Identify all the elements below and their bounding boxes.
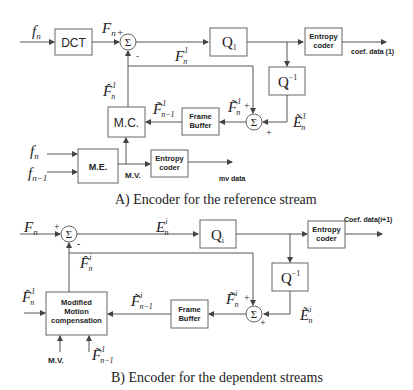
minus-sign: - — [77, 238, 80, 249]
signal-Ftildei-n: F̃in — [225, 289, 238, 309]
signal-Fhati-n: F̂in — [79, 253, 92, 273]
signal-Ftildei-nm1: F̃in−1 — [130, 291, 153, 311]
entropy-label-2: coder — [316, 234, 337, 243]
mmc-label-2: Motion — [64, 307, 89, 316]
coef-data-output: coef. data (1) — [351, 48, 394, 56]
entropy-label-1: Entropy — [309, 32, 338, 41]
frame-buffer-label-2: Buffer — [189, 121, 211, 130]
signal-f-n-me: fn — [30, 143, 39, 161]
sigma-label: Σ — [125, 36, 131, 48]
me-label: M.E. — [89, 162, 108, 172]
signal-Ftilde1-nm1: F̃1n−1 — [152, 99, 175, 119]
diagram-b: Fn + Σ - Ein Qi Entropy coder Coef. data… — [20, 216, 392, 386]
signal-f-n: fn — [32, 23, 41, 41]
signal-Ftilde1-nm1-b: F̃1n−1 — [91, 345, 114, 365]
caption-b: B) Encoder for the dependent streams — [111, 370, 323, 386]
signal-Fhat1-n-b: F̂1n — [21, 287, 35, 307]
signal-F1-n: F1n — [174, 46, 188, 66]
frame-buffer-label-1: Frame — [178, 305, 201, 314]
mv-label: M.V. — [125, 171, 141, 180]
entropy-label-2: coder — [313, 41, 334, 50]
signal-Ftilde1-n: F̃1n — [227, 97, 241, 117]
signal-Etilde1-n: Ẽ1n — [292, 112, 306, 132]
plus-sign: + — [266, 127, 272, 138]
plus-sign: + — [54, 221, 60, 232]
mmc-label-1: Modified — [61, 298, 92, 307]
entropy-label-1: Entropy — [312, 225, 341, 234]
signal-f-nm1: fn−1 — [28, 165, 47, 183]
sigma-label: Σ — [66, 228, 72, 240]
signal-F-n: Fn — [101, 20, 116, 38]
signal-Fhat1-n: F̂1n — [102, 81, 116, 101]
mc-label: M.C. — [114, 116, 139, 130]
dct-label: DCT — [61, 36, 86, 50]
mmc-label-3: compensation — [51, 316, 102, 325]
minus-sign: - — [136, 51, 139, 61]
diagram-a: fn DCT Fn + Σ - F1n Q1 Entropy coder coe… — [20, 20, 394, 208]
coef-data-output-b: Coef. data(i+1) — [344, 216, 392, 224]
frame-buffer-label-1: Frame — [189, 112, 212, 121]
entropy-mv-label-1: Entropy — [155, 154, 184, 163]
signal-Etildei-n: Ẽin — [299, 305, 312, 325]
encoder-diagram: fn DCT Fn + Σ - F1n Q1 Entropy coder coe… — [0, 0, 413, 390]
frame-buffer-label-2: Buffer — [178, 314, 200, 323]
entropy-mv-label-2: coder — [159, 163, 180, 172]
caption-a: A) Encoder for the reference stream — [115, 192, 317, 208]
sigma-label: Σ — [251, 308, 257, 320]
mv-label-b: M.V. — [48, 356, 64, 365]
mv-data-output: mv data — [219, 175, 246, 182]
plus-sign: + — [244, 292, 250, 303]
plus-sign: + — [244, 100, 250, 111]
signal-Ei-n: Ein — [155, 217, 168, 237]
sigma-label: Σ — [251, 116, 257, 128]
